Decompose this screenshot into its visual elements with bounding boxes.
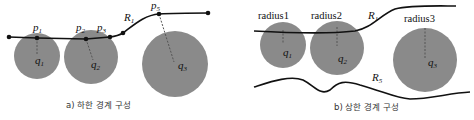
endpoint-dot xyxy=(7,35,12,40)
circle-q3 xyxy=(142,31,208,97)
panel-a-lower-bound: p1 p2 p3 R1 p5 q1 q2 q3 a) 하한 경계 구성 xyxy=(7,0,211,110)
circle-q3 xyxy=(393,28,457,92)
circle-q1 xyxy=(260,22,306,68)
endpoint-dot xyxy=(206,11,211,16)
label-radius2: radius2 xyxy=(311,10,342,21)
label-r1: R1 xyxy=(367,9,378,23)
point-p1 xyxy=(35,36,40,41)
label-radius3: radius3 xyxy=(404,13,435,24)
caption-b: b) 상한 경계 구성 xyxy=(334,102,399,112)
label-p3: p3 xyxy=(96,21,107,35)
label-r5: R5 xyxy=(371,71,383,85)
label-radius1: radius1 xyxy=(258,10,289,21)
label-p1: p1 xyxy=(32,21,42,35)
circle-q2 xyxy=(310,21,364,75)
figure: p1 p2 p3 R1 p5 q1 q2 q3 a) 하한 경계 구성 radi… xyxy=(0,0,474,120)
label-r1: R1 xyxy=(123,11,134,25)
label-p5: p5 xyxy=(150,0,161,13)
panel-b-upper-bound: radius1 radius2 radius3 R1 R5 q1 q2 q3 b… xyxy=(254,6,470,112)
label-p2: p2 xyxy=(75,21,86,35)
point-r1 xyxy=(121,31,126,36)
point-p3 xyxy=(108,35,113,40)
caption-a: a) 하한 경계 구성 xyxy=(66,100,131,110)
point-p2 xyxy=(84,37,89,42)
